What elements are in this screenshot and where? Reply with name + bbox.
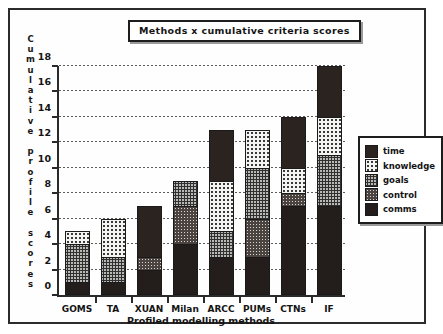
x-axis-tick <box>203 297 205 303</box>
y-axis-line <box>57 66 59 297</box>
x-axis-tick <box>95 297 97 303</box>
bar-segment-goals <box>245 168 270 219</box>
legend-label: control <box>383 190 417 200</box>
y-axis-tick <box>52 294 58 296</box>
y-axis-caption-letter: C <box>27 34 33 44</box>
bar-segment-goals <box>173 181 198 206</box>
legend-swatch-comms <box>365 203 378 216</box>
y-axis-tick <box>52 141 58 143</box>
x-axis-line <box>57 295 345 297</box>
x-axis-tick-label: CTNs <box>280 304 306 314</box>
chart-title-box: Methods x cumulative criteria scores <box>128 20 361 42</box>
bar-segment-control <box>137 257 162 270</box>
bar-goms[interactable] <box>65 231 90 295</box>
bar-segment-comms <box>65 282 90 295</box>
x-axis-tick <box>239 297 241 303</box>
bar-segment-comms <box>137 270 162 295</box>
y-axis-tick-label: 18 <box>29 51 51 62</box>
y-axis-caption-letter: e <box>28 269 34 279</box>
legend-label: time <box>383 146 405 156</box>
bar-segment-goals <box>65 244 90 282</box>
bar-segment-knowledge <box>245 130 270 168</box>
x-axis-tick-label: IF <box>324 304 334 314</box>
bar-segment-comms <box>101 282 126 295</box>
x-axis-tick <box>131 297 133 303</box>
legend-swatch-knowledge <box>365 159 378 172</box>
bar-ta[interactable] <box>101 219 126 295</box>
x-axis-tick-label: XUAN <box>135 304 163 314</box>
y-axis-tick <box>52 269 58 271</box>
x-axis-tick <box>311 297 313 303</box>
legend-label: goals <box>383 175 409 185</box>
bar-segment-goals <box>317 155 342 206</box>
bar-segment-knowledge <box>101 219 126 257</box>
y-axis-tick <box>52 116 58 118</box>
y-axis-tick <box>52 243 58 245</box>
bar-segment-knowledge <box>281 168 306 193</box>
y-axis-tick-label: 10 <box>29 152 51 163</box>
bar-segment-knowledge <box>317 117 342 155</box>
legend-swatch-goals <box>365 174 378 187</box>
x-axis-tick-label: Milan <box>171 304 199 314</box>
legend-label: comms <box>383 204 417 214</box>
y-axis-tick <box>52 218 58 220</box>
gridline <box>59 90 345 91</box>
y-axis-tick-label: 12 <box>29 127 51 138</box>
legend-item-comms[interactable]: comms <box>365 203 435 216</box>
y-axis-tick-label: 16 <box>29 76 51 87</box>
bar-milan[interactable] <box>173 181 198 295</box>
y-axis-caption-letter: v <box>28 116 34 126</box>
y-axis-tick-label: 4 <box>29 229 51 240</box>
bar-segment-comms <box>209 257 234 295</box>
x-axis-tick-label: GOMS <box>62 304 92 314</box>
bar-segment-time <box>317 66 342 117</box>
y-axis-tick <box>52 90 58 92</box>
bar-segment-time <box>281 117 306 168</box>
bar-xuan[interactable] <box>137 206 162 295</box>
bar-segment-time <box>209 130 234 181</box>
y-axis-tick-label: 14 <box>29 101 51 112</box>
figure-frame: Methods x cumulative criteria scores Cum… <box>8 8 426 324</box>
bar-arcc[interactable] <box>209 130 234 295</box>
y-axis-caption-letter: u <box>27 65 33 75</box>
x-axis-tick <box>167 297 169 303</box>
legend-label: knowledge <box>383 161 435 171</box>
x-axis-tick-label: ARCC <box>207 304 234 314</box>
y-axis-tick <box>52 192 58 194</box>
legend-item-knowledge[interactable]: knowledge <box>365 159 435 172</box>
chart-legend: timeknowledgegoalscontrolcomms <box>358 136 443 224</box>
plot-area: 024681012141618 GOMSTAXUANMilanARCCPUMsC… <box>57 66 345 297</box>
bar-segment-goals <box>209 231 234 256</box>
y-axis-tick <box>52 167 58 169</box>
bar-segment-comms <box>245 257 270 295</box>
x-axis-tick-label: TA <box>107 304 119 314</box>
legend-swatch-time <box>365 145 378 158</box>
legend-item-goals[interactable]: goals <box>365 174 435 187</box>
bar-segment-comms <box>317 206 342 295</box>
bar-segment-control <box>173 206 198 244</box>
bar-pums[interactable] <box>245 130 270 295</box>
x-axis-tick <box>275 297 277 303</box>
bar-segment-comms <box>281 206 306 295</box>
bar-segment-comms <box>173 244 198 295</box>
y-axis-tick-label: 0 <box>29 280 51 291</box>
bar-segment-time <box>137 206 162 257</box>
bar-if[interactable] <box>317 66 342 295</box>
bar-segment-knowledge <box>65 231 90 244</box>
y-axis-caption-letter: o <box>28 167 34 177</box>
y-axis-tick <box>52 65 58 67</box>
y-axis-tick-label: 2 <box>29 254 51 265</box>
bar-segment-control <box>245 219 270 257</box>
legend-item-control[interactable]: control <box>365 188 435 201</box>
x-axis-tick-label: PUMs <box>243 304 271 314</box>
legend-item-time[interactable]: time <box>365 145 435 158</box>
page-title: Methods x cumulative criteria scores <box>139 25 350 36</box>
y-axis-tick-label: 8 <box>29 178 51 189</box>
bar-segment-goals <box>101 257 126 282</box>
bar-ctns[interactable] <box>281 117 306 295</box>
x-axis-caption: Profiled modelling methods <box>57 315 345 326</box>
y-axis-tick-label: 6 <box>29 203 51 214</box>
legend-swatch-control <box>365 188 378 201</box>
bar-segment-knowledge <box>209 181 234 232</box>
gridline <box>59 65 345 66</box>
